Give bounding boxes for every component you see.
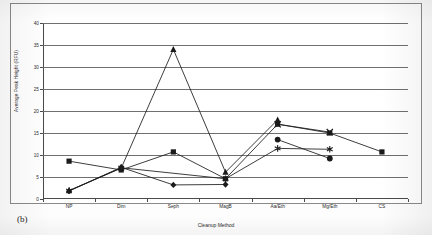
panel-label: (b)	[17, 214, 28, 224]
series-triangle	[66, 46, 281, 193]
x-axis-tick-label: Aa/Eth	[270, 204, 284, 209]
y-axis-tick-label: 5	[36, 175, 39, 180]
plot-area: 0510152025303540 NPDimSephMagBAa/EthMg/E…	[43, 23, 408, 199]
series-line	[69, 49, 278, 190]
x-axis-tick-label: Seph	[168, 204, 179, 209]
data-point-circle	[327, 156, 333, 162]
data-point-diamond	[170, 182, 176, 188]
series-line	[278, 124, 330, 132]
data-point-square	[327, 130, 332, 135]
x-axis-tick-label: Dim	[117, 204, 126, 209]
series-diamond	[66, 164, 228, 194]
x-axis-tick-mark	[147, 199, 148, 202]
data-point-square	[66, 159, 71, 164]
y-axis-tick-label: 40	[34, 21, 39, 26]
x-axis-title: Cleanup Method	[0, 222, 432, 228]
x-axis-tick-mark	[408, 199, 409, 202]
x-axis-tick-label: CS	[379, 204, 386, 209]
x-axis-tick-mark	[43, 199, 44, 202]
data-point-triangle	[170, 46, 176, 52]
series-x	[275, 121, 333, 135]
x-axis-tick-label: Mg/Eth	[322, 204, 337, 209]
x-axis-tick-mark	[304, 199, 305, 202]
data-series-layer	[43, 23, 408, 199]
y-axis-title: Average Peak Height (RFU)	[14, 50, 19, 112]
data-point-square	[171, 149, 176, 154]
y-axis-tick-label: 30	[34, 65, 39, 70]
x-axis-tick-mark	[199, 199, 200, 202]
series-star	[66, 145, 333, 194]
y-axis-tick-label: 20	[34, 109, 39, 114]
x-axis-tick-label: MagB	[219, 204, 232, 209]
y-axis-tick-label: 15	[34, 131, 39, 136]
x-axis-tick-mark	[95, 199, 96, 202]
data-point-square	[379, 149, 384, 154]
y-axis-tick-label: 0	[36, 197, 39, 202]
y-axis-tick-label: 25	[34, 87, 39, 92]
y-axis-tick-label: 10	[34, 153, 39, 158]
figure-root: Average Peak Height (RFU) 05101520253035…	[0, 0, 432, 235]
x-axis-tick-label: NP	[66, 204, 73, 209]
x-axis-tick-mark	[252, 199, 253, 202]
y-axis-tick-label: 35	[34, 43, 39, 48]
data-point-circle	[275, 137, 281, 143]
x-axis-tick-mark	[356, 199, 357, 202]
data-point-diamond	[223, 181, 229, 187]
